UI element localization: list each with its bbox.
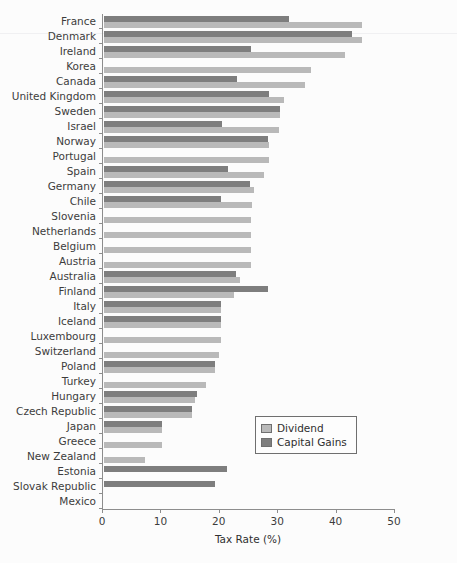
bar-dividend[interactable] (104, 22, 362, 27)
plot-area: FranceDenmarkIrelandKoreaCanadaUnited Ki… (0, 14, 457, 509)
bar-capital-gains[interactable] (104, 196, 221, 201)
y-axis-label: Switzerland (35, 346, 96, 357)
bar-dividend[interactable] (104, 157, 269, 162)
bar-capital-gains[interactable] (104, 166, 228, 171)
x-axis-tick (160, 509, 161, 513)
bar-dividend[interactable] (104, 232, 251, 237)
y-axis-tick (99, 478, 103, 479)
bar-capital-gains[interactable] (104, 361, 215, 366)
y-axis-label: Turkey (62, 376, 96, 387)
y-axis-label: Hungary (51, 391, 96, 402)
bar-dividend[interactable] (104, 307, 221, 312)
bar-dividend[interactable] (104, 442, 162, 447)
legend-item-dividend[interactable]: Dividend (261, 421, 347, 435)
bar-dividend[interactable] (104, 217, 251, 222)
bar-dividend[interactable] (104, 127, 279, 132)
y-axis-tick (99, 433, 103, 434)
y-axis-label: Mexico (59, 496, 96, 507)
y-axis-tick (99, 178, 103, 179)
bar-capital-gains[interactable] (104, 16, 289, 21)
bar-capital-gains[interactable] (104, 46, 251, 51)
bar-dividend[interactable] (104, 457, 145, 462)
bar-capital-gains[interactable] (104, 76, 237, 81)
bar-capital-gains[interactable] (104, 316, 221, 321)
y-axis-label: Greece (59, 436, 96, 447)
bar-dividend[interactable] (104, 382, 206, 387)
y-axis-label: Iceland (58, 316, 96, 327)
y-axis-tick (99, 493, 103, 494)
legend-label-capital-gains: Capital Gains (277, 436, 347, 448)
bar-dividend[interactable] (104, 427, 162, 432)
y-axis-tick (99, 223, 103, 224)
y-axis-label: France (61, 16, 96, 27)
y-axis-label: Austria (59, 256, 96, 267)
bar-capital-gains[interactable] (104, 106, 280, 111)
bar-dividend[interactable] (104, 187, 254, 192)
bar-capital-gains[interactable] (104, 391, 197, 396)
x-axis-tick (219, 509, 220, 513)
bar-dividend[interactable] (104, 322, 221, 327)
y-axis-label: Germany (48, 181, 96, 192)
y-axis-tick (99, 373, 103, 374)
x-axis-tick-label: 0 (99, 515, 106, 527)
x-axis-tick (277, 509, 278, 513)
y-axis-label: Finland (58, 286, 96, 297)
bar-dividend[interactable] (104, 397, 195, 402)
legend-item-capital-gains[interactable]: Capital Gains (261, 435, 347, 449)
y-axis-tick (99, 268, 103, 269)
bar-capital-gains[interactable] (104, 91, 269, 96)
legend-label-dividend: Dividend (277, 422, 324, 434)
bar-dividend[interactable] (104, 337, 221, 342)
bar-capital-gains[interactable] (104, 121, 222, 126)
bar-capital-gains[interactable] (104, 181, 250, 186)
bar-capital-gains[interactable] (104, 466, 227, 471)
bar-dividend[interactable] (104, 262, 251, 267)
y-axis-label: Australia (50, 271, 96, 282)
bar-dividend[interactable] (104, 352, 219, 357)
y-axis-label: Ireland (60, 46, 96, 57)
bar-dividend[interactable] (104, 202, 252, 207)
bar-dividend[interactable] (104, 292, 234, 297)
bar-dividend[interactable] (104, 247, 251, 252)
y-axis-label: Norway (56, 136, 96, 147)
bar-capital-gains[interactable] (104, 136, 268, 141)
bar-dividend[interactable] (104, 52, 345, 57)
bar-dividend[interactable] (104, 112, 280, 117)
y-axis-label: United Kingdom (12, 91, 96, 102)
y-axis-tick (99, 238, 103, 239)
bar-dividend[interactable] (104, 412, 192, 417)
bar-capital-gains[interactable] (104, 301, 221, 306)
x-axis-tick (336, 509, 337, 513)
bar-dividend[interactable] (104, 277, 240, 282)
y-axis-tick (99, 283, 103, 284)
y-axis-tick (99, 193, 103, 194)
bar-capital-gains[interactable] (104, 406, 192, 411)
bar-dividend[interactable] (104, 67, 311, 72)
bar-dividend[interactable] (104, 172, 264, 177)
y-axis-tick (99, 358, 103, 359)
y-axis-label: Spain (67, 166, 96, 177)
bar-capital-gains[interactable] (104, 421, 162, 426)
y-axis-label: Portugal (53, 151, 97, 162)
y-axis-label: Chile (70, 196, 96, 207)
bar-dividend[interactable] (104, 367, 215, 372)
x-axis-line (102, 509, 394, 510)
bar-dividend[interactable] (104, 82, 305, 87)
y-axis-label: Netherlands (32, 226, 96, 237)
bar-dividend[interactable] (104, 37, 362, 42)
y-axis-tick (99, 208, 103, 209)
bar-capital-gains[interactable] (104, 481, 215, 486)
y-axis-label: New Zealand (27, 451, 96, 462)
y-axis-label: Italy (73, 301, 96, 312)
bar-capital-gains[interactable] (104, 31, 352, 36)
y-axis-tick (99, 463, 103, 464)
y-axis-tick (99, 28, 103, 29)
bar-dividend[interactable] (104, 97, 284, 102)
bar-capital-gains[interactable] (104, 271, 236, 276)
y-axis-label: Denmark (48, 31, 96, 42)
y-axis-label: Sweden (55, 106, 97, 117)
bar-dividend[interactable] (104, 142, 269, 147)
bar-capital-gains[interactable] (104, 286, 268, 291)
y-axis-tick (99, 58, 103, 59)
tax-rate-bar-chart: FranceDenmarkIrelandKoreaCanadaUnited Ki… (0, 0, 457, 563)
